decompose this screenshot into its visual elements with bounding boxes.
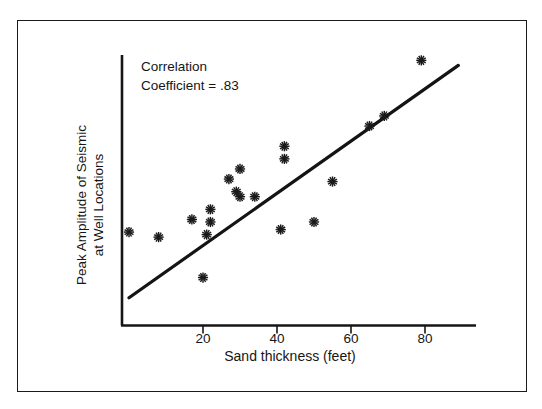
scatter-point [276,224,286,234]
scatter-point [205,217,215,227]
scatter-point [187,214,197,224]
scatter-point [154,232,164,242]
scatter-point [198,272,208,282]
scatter-point [202,230,212,240]
scatter-point [205,204,215,214]
scatter-point [224,174,234,184]
scatter-markers [124,55,427,282]
scatter-point [124,227,134,237]
scatter-point [235,164,245,174]
scatter-point [279,154,289,164]
axes [121,55,476,334]
scatter-point [327,176,337,186]
scatter-point [279,141,289,151]
figure-scatter-plot: Peak Amplitude of Seismic at Well Locati… [0,0,542,409]
scatter-point [250,192,260,202]
scatter-point [416,55,426,65]
scatter-point [309,217,319,227]
plot-canvas [0,0,542,409]
regression-trendline [129,65,458,297]
